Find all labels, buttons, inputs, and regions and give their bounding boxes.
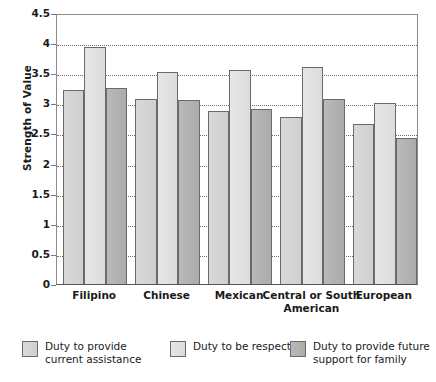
bar-group [135,15,200,284]
bar-group [353,15,418,284]
x-axis-labels: FilipinoChineseMexicanCentral or South A… [56,289,418,323]
legend-item[interactable]: Duty to provide current assistance [22,340,141,365]
legend-item[interactable]: Duty to provide future support for famil… [290,340,430,365]
y-tick-label: 1.5 [14,188,50,200]
bar-group [63,15,128,284]
y-tick-label: 1 [14,218,50,230]
y-tick-mark [51,255,56,256]
chart-legend: Duty to provide current assistanceDuty t… [0,334,436,382]
y-tick-mark [51,195,56,196]
legend-swatch-icon [170,341,186,357]
y-tick-label: 2.5 [14,127,50,139]
bar [63,90,85,284]
y-tick-mark [51,225,56,226]
bar-chart: Strength of Value 00.511.522.533.544.5 F… [0,0,436,382]
x-axis-label: European [334,289,434,302]
plot-area [56,14,418,285]
y-tick-mark [51,74,56,75]
y-tick-label: 0.5 [14,248,50,260]
y-tick-mark [51,285,56,286]
bar [280,117,302,284]
legend-item[interactable]: Duty to be respectful [170,340,304,357]
legend-swatch-icon [22,341,38,357]
bar-group [208,15,273,284]
bar [106,88,128,284]
bar [229,70,251,284]
legend-swatch-icon [290,341,306,357]
bar-group [280,15,345,284]
y-axis-title: Strength of Value [21,43,33,193]
y-tick-label: 2 [14,158,50,170]
y-tick-label: 3.5 [14,67,50,79]
y-tick-label: 3 [14,97,50,109]
bar [208,111,230,284]
bars-layer [57,15,417,284]
bar [84,47,106,284]
bar [178,100,200,284]
y-tick-mark [51,165,56,166]
y-tick-mark [51,134,56,135]
y-tick-mark [51,14,56,15]
bar [374,103,396,284]
bar [251,109,273,284]
legend-label: Duty to provide current assistance [45,340,141,365]
bar [353,124,375,284]
y-tick-label: 4.5 [14,7,50,19]
bar [396,138,418,284]
y-tick-label: 4 [14,37,50,49]
bar [135,99,157,284]
y-tick-mark [51,44,56,45]
bar [157,72,179,284]
legend-label: Duty to provide future support for famil… [313,340,430,365]
bar [323,99,345,284]
bar [302,67,324,284]
y-tick-mark [51,104,56,105]
legend-label: Duty to be respectful [193,340,304,353]
